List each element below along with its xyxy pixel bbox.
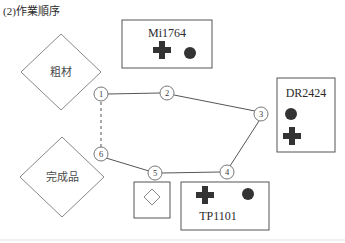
- edge-n4-n5: [162, 172, 220, 173]
- finished-product-shape: 完成品: [20, 137, 104, 217]
- machine-box-title: Mi1764: [148, 26, 186, 40]
- node-2[interactable]: 2: [160, 86, 174, 100]
- finished-product-label: 完成品: [46, 170, 79, 184]
- edge-n2-n3: [174, 95, 255, 111]
- node-4[interactable]: 4: [220, 165, 234, 179]
- node-group: 1 2 3 4 5 6: [94, 86, 268, 180]
- node-number: 2: [165, 88, 169, 98]
- edge-n3-n4: [230, 121, 259, 166]
- circle-icon: [285, 108, 297, 120]
- edge-group: [101, 93, 259, 173]
- process-sequence-diagram: 粗材 完成品 Mi1764 DR2424: [0, 0, 345, 243]
- circle-icon: [184, 47, 196, 59]
- node-number: 3: [259, 109, 263, 119]
- machine-box-dr2424: DR2424: [277, 78, 335, 152]
- edge-n1-n2: [108, 93, 160, 94]
- diagram-page: (2)作業順序 粗材 完成品 Mi1764: [0, 0, 345, 243]
- inspection-box: [134, 182, 170, 218]
- machine-box-title: TP1101: [199, 209, 237, 223]
- machine-box-mi1764: Mi1764: [122, 20, 212, 68]
- machine-box-tp1101: TP1101: [181, 182, 269, 230]
- node-number: 1: [99, 89, 103, 99]
- raw-material-shape: 粗材: [21, 34, 101, 110]
- node-number: 6: [99, 149, 103, 159]
- node-number: 5: [153, 168, 157, 178]
- node-1[interactable]: 1: [94, 87, 108, 101]
- machine-box-title: DR2424: [286, 86, 327, 100]
- circle-icon: [242, 188, 254, 200]
- raw-material-label: 粗材: [50, 65, 72, 79]
- node-6[interactable]: 6: [94, 147, 108, 161]
- edge-n5-n6: [106, 158, 149, 171]
- node-5[interactable]: 5: [148, 166, 162, 180]
- node-3[interactable]: 3: [254, 107, 268, 121]
